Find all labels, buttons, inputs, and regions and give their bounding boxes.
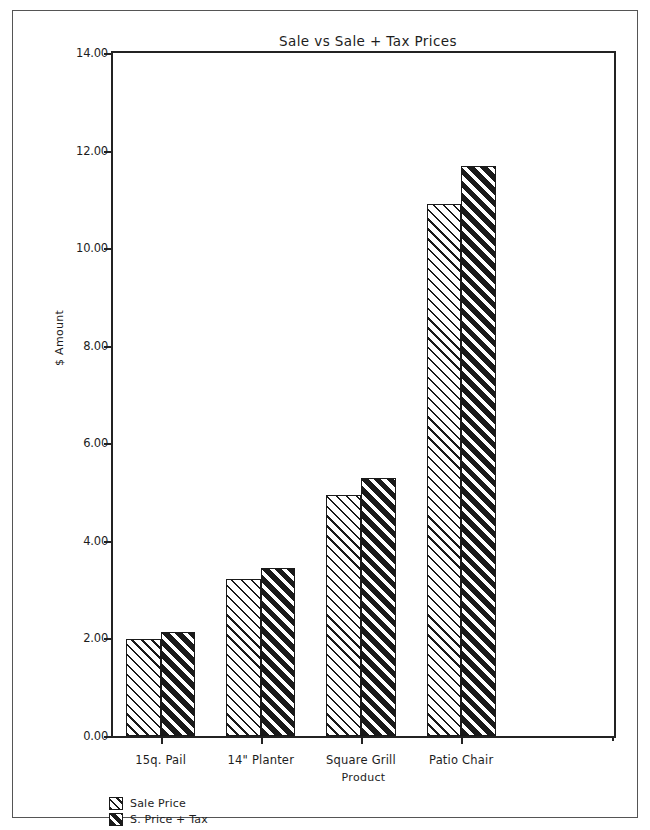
bar-sale-plus-tax [161, 632, 196, 736]
y-axis-tick-label: 6.00 [83, 436, 108, 450]
x-axis-category-label: Patio Chair [429, 753, 493, 767]
legend-swatch-sale-plus-tax [109, 813, 123, 826]
legend-item: Sale Price [109, 797, 208, 810]
bar-sale-price [427, 204, 462, 736]
x-axis-tick [261, 736, 263, 744]
x-axis-category-label: 14" Planter [228, 753, 295, 767]
page-frame: Sale vs Sale + Tax Prices $ Amount 0.002… [12, 10, 638, 818]
y-axis-tick-label: 14.00 [76, 46, 108, 60]
x-axis-category-label: Square Grill [326, 753, 396, 767]
y-axis-tick-label: 4.00 [83, 534, 108, 548]
bar-chart-figure: Sale vs Sale + Tax Prices $ Amount 0.002… [13, 11, 639, 819]
x-axis-end-tick [612, 736, 614, 741]
plot-area: 0.002.004.006.008.0010.0012.0014.00 [111, 51, 616, 738]
legend-item: S. Price + Tax [109, 813, 208, 826]
bar-sale-price [126, 639, 161, 736]
chart-legend: Sale PriceS. Price + Tax [109, 797, 208, 826]
bar-sale-price [226, 579, 261, 736]
y-axis-tick-label: 8.00 [83, 339, 108, 353]
legend-label: Sale Price [130, 797, 186, 810]
x-axis-category-label: 15q. Pail [135, 753, 186, 767]
x-axis-title: Product [111, 771, 616, 784]
x-axis-tick [461, 736, 463, 744]
y-axis-tick-label: 2.00 [83, 631, 108, 645]
y-axis-tick-label: 12.00 [76, 144, 108, 158]
chart-title: Sale vs Sale + Tax Prices [113, 33, 623, 49]
bar-sale-plus-tax [261, 568, 296, 736]
x-axis-tick [361, 736, 363, 744]
y-axis-tick-label: 0.00 [83, 729, 108, 743]
bar-sale-plus-tax [361, 478, 396, 736]
legend-label: S. Price + Tax [130, 813, 208, 826]
bar-sale-plus-tax [461, 166, 496, 736]
plot-surface: 0.002.004.006.008.0010.0012.0014.00 [113, 53, 614, 736]
y-axis-tick-label: 10.00 [76, 241, 108, 255]
y-axis-title: $ Amount [53, 310, 66, 366]
bar-sale-price [326, 495, 361, 736]
legend-swatch-sale-price [109, 797, 123, 810]
x-axis-tick [161, 736, 163, 744]
